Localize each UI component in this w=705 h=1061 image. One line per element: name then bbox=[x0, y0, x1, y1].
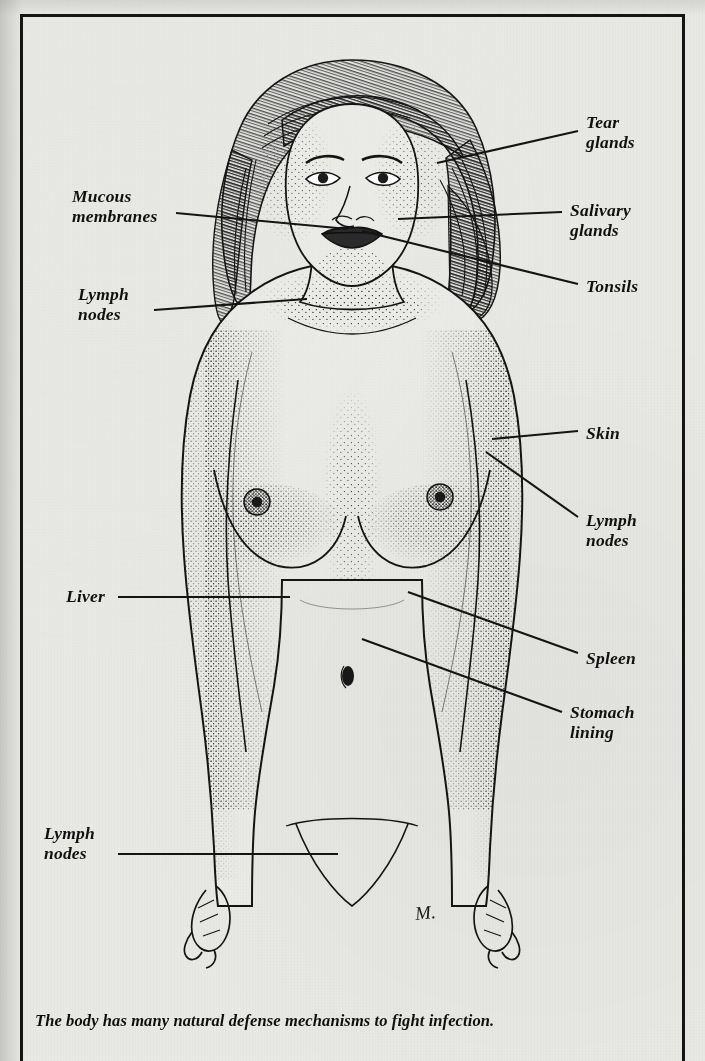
figure-caption: The body has many natural defense mechan… bbox=[35, 1011, 494, 1031]
abdomen-detail bbox=[286, 600, 418, 906]
label-liver: Liver bbox=[66, 586, 105, 606]
label-stomach-lining: Stomach lining bbox=[570, 702, 635, 742]
label-salivary-glands: Salivary glands bbox=[570, 200, 631, 240]
label-spleen: Spleen bbox=[586, 648, 636, 668]
artist-signature: M. bbox=[414, 901, 437, 925]
label-lymph-nodes-arm: Lymph nodes bbox=[586, 510, 637, 550]
label-tonsils: Tonsils bbox=[586, 276, 638, 296]
diagram-page: Tear glandsSalivary glandsTonsilsMucous … bbox=[0, 0, 705, 1061]
label-lymph-nodes-neck: Lymph nodes bbox=[78, 284, 129, 324]
label-tear-glands: Tear glands bbox=[586, 112, 635, 152]
label-mucous-membranes: Mucous membranes bbox=[72, 186, 157, 226]
label-lymph-nodes-groin: Lymph nodes bbox=[44, 823, 95, 863]
label-skin: Skin bbox=[586, 423, 620, 443]
